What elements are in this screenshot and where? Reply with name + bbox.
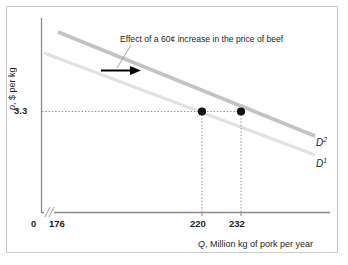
x-axis-title-variable: Q [198, 239, 205, 249]
x-tick-label-232: 232 [229, 219, 245, 229]
curve-label-d2-superscript: 2 [323, 136, 327, 143]
x-axis-title-units: , Million kg of pork per year [205, 239, 313, 249]
x-tick-label-176: 176 [49, 219, 65, 229]
y-axis-title-units: , $ per kg [7, 67, 17, 105]
x-tick-label-0: 0 [31, 219, 36, 229]
equilibrium-point-e1 [198, 107, 206, 115]
demand-shift-figure: p, $ per kg Q, Million kg of pork per ye… [0, 0, 348, 265]
y-tick-label-330: 3.3 [14, 106, 27, 116]
curve-label-d1-superscript: 1 [323, 157, 327, 164]
demand-curve-d1 [44, 53, 315, 155]
y-axis-title: p, $ per kg [8, 18, 21, 110]
shift-arrow-icon [101, 66, 141, 75]
curve-label-d2: D2 [316, 136, 327, 148]
x-tick-label-220: 220 [190, 219, 206, 229]
demand-curve-d2 [58, 32, 315, 136]
x-axis-title: Q, Million kg of pork per year [198, 240, 313, 249]
equilibrium-point-e2 [237, 107, 245, 115]
axis-break-icon [44, 207, 54, 218]
curve-label-d1: D1 [316, 157, 327, 169]
shift-annotation-label: Effect of a 60¢ increase in the price of… [120, 35, 283, 44]
